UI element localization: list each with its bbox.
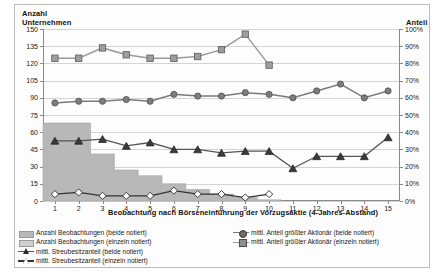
x-tick-label: 8	[213, 205, 231, 212]
x-tickmark	[341, 201, 342, 204]
legend-key	[18, 228, 34, 237]
marker-circle	[266, 91, 272, 97]
y-tick-label-right: 90%	[405, 43, 435, 50]
x-tick-label: 14	[355, 205, 373, 212]
x-tick-label: 6	[165, 205, 183, 212]
marker-triangle	[384, 134, 392, 141]
y-tickmark-left	[40, 63, 43, 64]
marker-circle	[218, 93, 224, 99]
marker-square	[242, 31, 248, 37]
x-tick-label: 15	[379, 205, 397, 212]
legend-item[interactable]: mittl. Streubesitzanteil (beide notiert)	[18, 247, 233, 256]
marker-circle	[76, 98, 82, 104]
x-tick-label: 3	[94, 205, 112, 212]
marker-circle	[147, 98, 153, 104]
y-tickmark-right	[400, 98, 403, 99]
y-tick-label-right: 10%	[405, 180, 435, 187]
marker-square	[218, 46, 224, 52]
series-circle-filled	[52, 81, 391, 106]
marker-circle	[123, 96, 129, 102]
x-tickmark	[293, 201, 294, 204]
x-tick-label: 12	[308, 205, 326, 212]
legend-marker-triangle	[23, 248, 29, 254]
x-tickmark	[317, 201, 318, 204]
legend-item[interactable]: mittl. Anteil größter Aktionär (einzeln …	[233, 237, 433, 246]
legend-key	[18, 238, 34, 247]
y-tick-label-left: 45	[14, 146, 38, 153]
marker-circle	[195, 93, 201, 99]
legend-item[interactable]: Anzahl Beobachtungen (einzeln notiert)	[18, 237, 233, 246]
y-tickmark-left	[40, 167, 43, 168]
x-tick-label: 5	[141, 205, 159, 212]
y-tickmark-left	[40, 115, 43, 116]
plot-area	[43, 29, 400, 201]
y-tick-label-right: 40%	[405, 129, 435, 136]
y-tickmark-right	[400, 81, 403, 82]
legend-marker-square	[239, 239, 247, 247]
y-tick-label-left: 105	[14, 77, 38, 84]
legend-key	[18, 256, 34, 265]
y-tick-label-left: 30	[14, 163, 38, 170]
legend-item[interactable]: Anzahl Beobachtungen (beide notiert)	[18, 228, 233, 237]
y-tick-label-left: 90	[14, 94, 38, 101]
chart-legend: Anzahl Beobachtungen (beide notiert)Anza…	[18, 228, 428, 268]
legend-label: mittl. Streubesitzanteil (einzeln notier…	[36, 256, 148, 265]
marker-square	[147, 55, 153, 61]
marker-square	[76, 55, 82, 61]
marker-diamond	[266, 191, 273, 198]
marker-circle	[337, 81, 343, 87]
x-tickmark	[126, 201, 127, 204]
series-line	[55, 34, 269, 65]
marker-square	[266, 62, 272, 68]
x-tick-label: 4	[117, 205, 135, 212]
x-tick-label: 9	[236, 205, 254, 212]
left-axis-title: Anzahl Unternehmen	[22, 9, 71, 27]
y-tick-label-left: 120	[14, 60, 38, 67]
y-tick-label-right: 60%	[405, 94, 435, 101]
y-tick-label-left: 150	[14, 26, 38, 33]
x-tickmark	[103, 201, 104, 204]
marker-square	[52, 55, 58, 61]
marker-circle	[290, 95, 296, 101]
y-tickmark-right	[400, 167, 403, 168]
marker-circle	[99, 98, 105, 104]
y-tick-label-left: 60	[14, 129, 38, 136]
legend-item[interactable]: mittl. Streubesitzanteil (einzeln notier…	[18, 256, 233, 265]
y-tickmark-right	[400, 149, 403, 150]
y-tickmark-right	[400, 29, 403, 30]
x-tickmark	[174, 201, 175, 204]
y-tickmark-right	[400, 46, 403, 47]
y-tick-label-right: 0%	[405, 198, 435, 205]
legend-column-left: Anzahl Beobachtungen (beide notiert)Anza…	[18, 228, 233, 266]
x-tickmark	[269, 201, 270, 204]
y-tick-label-right: 80%	[405, 60, 435, 67]
x-tickmark	[55, 201, 56, 204]
y-tick-label-left: 135	[14, 43, 38, 50]
chart-svg	[43, 29, 400, 201]
y-tickmark-left	[40, 81, 43, 82]
x-tick-label: 7	[189, 205, 207, 212]
legend-label: mittl. Anteil größter Aktionär (einzeln …	[251, 237, 379, 246]
x-tick-label: 13	[332, 205, 350, 212]
marker-circle	[361, 95, 367, 101]
y-tick-label-left: 0	[14, 198, 38, 205]
marker-square	[195, 53, 201, 59]
x-tickmark	[222, 201, 223, 204]
y-tick-label-right: 30%	[405, 146, 435, 153]
x-tick-label: 11	[284, 205, 302, 212]
series-square-filled	[52, 31, 273, 68]
y-tickmark-right	[400, 132, 403, 133]
y-tickmark-left	[40, 29, 43, 30]
legend-item[interactable]: mittl. Anteil größter Aktionär (beide no…	[233, 228, 433, 237]
marker-circle	[242, 90, 248, 96]
marker-square	[123, 52, 129, 58]
marker-circle	[171, 91, 177, 97]
x-tick-label: 1	[46, 205, 64, 212]
x-tickmark	[245, 201, 246, 204]
marker-square	[171, 55, 177, 61]
legend-label: Anzahl Beobachtungen (beide notiert)	[36, 228, 147, 237]
y-tick-label-right: 50%	[405, 112, 435, 119]
x-tickmark	[388, 201, 389, 204]
y-tickmark-left	[40, 132, 43, 133]
x-tick-label: 2	[70, 205, 88, 212]
